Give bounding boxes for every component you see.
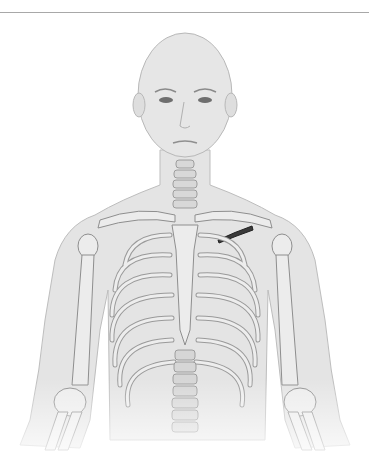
anatomy-illustration xyxy=(0,0,369,473)
bottom-fade xyxy=(0,0,369,473)
